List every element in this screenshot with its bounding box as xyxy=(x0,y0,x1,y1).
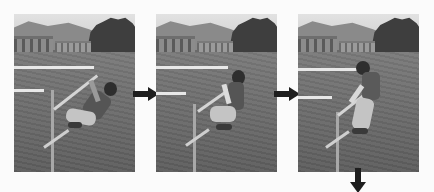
horizontal-bar-front xyxy=(298,96,332,99)
photo-frame-step-3 xyxy=(298,14,419,172)
arrow-down-icon xyxy=(350,168,366,192)
person-feet xyxy=(352,128,368,134)
horizontal-bar-front xyxy=(156,92,186,95)
horizontal-bar-back xyxy=(156,66,228,69)
person-torso xyxy=(362,72,380,100)
horizontal-bar-front xyxy=(14,89,44,92)
photo-frame-step-2 xyxy=(156,14,277,172)
horizontal-bar-back xyxy=(14,66,94,69)
horizontal-bar-back xyxy=(298,68,360,71)
bar-post xyxy=(51,90,54,172)
photo-frame-step-1 xyxy=(14,14,135,172)
person-feet xyxy=(216,124,232,130)
person-feet xyxy=(68,122,82,128)
person-head xyxy=(104,82,117,96)
arrow-right-icon xyxy=(274,87,300,101)
person-legs xyxy=(210,106,236,122)
